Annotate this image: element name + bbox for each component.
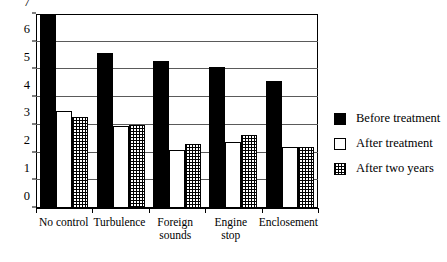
bar <box>129 125 145 208</box>
bar-chart-figure: 01234567 No controlTurbulenceForeignsoun… <box>0 0 447 262</box>
legend-item: After treatment <box>334 137 446 150</box>
bar <box>40 14 56 208</box>
y-tick-label: 7 <box>24 0 30 8</box>
bar <box>185 144 201 208</box>
bar <box>241 135 257 208</box>
y-tick-label: 2 <box>24 134 30 147</box>
y-tick-label: 6 <box>24 23 30 36</box>
x-tick-mark <box>262 208 263 213</box>
x-tick-mark <box>36 208 37 213</box>
legend-item-label: After treatment <box>356 137 433 150</box>
bar-group <box>205 14 261 208</box>
bar-group <box>262 14 318 208</box>
y-tick-label: 0 <box>24 189 30 202</box>
bar <box>169 150 185 208</box>
x-axis-category-label: No control <box>36 216 92 242</box>
legend-item-label: Before treatment <box>356 112 440 125</box>
y-tick-label: 5 <box>24 51 30 64</box>
bar-group <box>149 14 205 208</box>
bar <box>72 117 88 208</box>
plot-wrapper: 01234567 <box>36 14 318 208</box>
x-tick-mark <box>149 208 150 213</box>
chart-legend: Before treatmentAfter treatmentAfter two… <box>334 112 446 187</box>
x-axis-category-label: Turbulence <box>92 216 148 242</box>
x-tick-mark <box>205 208 206 213</box>
bar <box>282 147 298 208</box>
bar <box>56 111 72 208</box>
solid-black-swatch <box>334 113 346 125</box>
x-axis-category-label: Foreignsounds <box>147 216 203 242</box>
x-axis-labels: No controlTurbulenceForeignsoundsEngines… <box>36 216 318 242</box>
bar <box>298 147 314 208</box>
x-tick-mark <box>318 208 319 213</box>
white-outline-swatch <box>334 138 346 150</box>
x-axis-line <box>36 208 318 209</box>
y-tick-label: 1 <box>24 162 30 175</box>
bar-group <box>92 14 148 208</box>
y-tick-label: 3 <box>24 106 30 119</box>
bar <box>209 67 225 208</box>
bar <box>113 126 129 208</box>
bar-groups-layer <box>36 14 318 208</box>
bar <box>97 53 113 208</box>
bar-group <box>36 14 92 208</box>
bar <box>225 142 241 209</box>
dotted-grid-swatch <box>334 163 346 175</box>
x-axis-category-label: Enginestop <box>203 216 259 242</box>
bar <box>153 61 169 208</box>
y-tick-label: 4 <box>24 78 30 91</box>
legend-item: Before treatment <box>334 112 446 125</box>
legend-item-label: After two years <box>356 162 434 175</box>
x-axis-category-label: Enclosement <box>259 216 318 242</box>
x-tick-mark <box>92 208 93 213</box>
legend-item: After two years <box>334 162 446 175</box>
bar <box>266 81 282 208</box>
